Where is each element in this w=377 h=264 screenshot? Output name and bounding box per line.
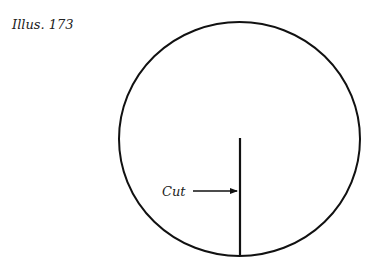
diagram-canvas: Cut [0,0,377,264]
cut-label: Cut [162,184,186,199]
